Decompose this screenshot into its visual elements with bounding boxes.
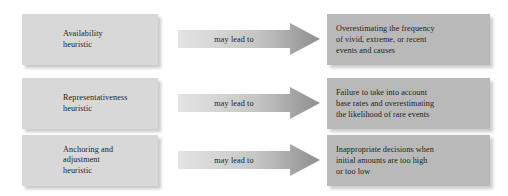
outcome-text-line: Failure to take into account — [336, 87, 485, 98]
heuristic-box: Anchoring and adjustment heuristic — [22, 135, 158, 186]
heuristic-label-line: heuristic — [63, 104, 152, 115]
heuristic-label-line: Availability — [63, 29, 152, 40]
outcome-text-line: initial amounts are too high — [336, 155, 485, 166]
outcome-box: Failure to take into account base rates … — [327, 78, 490, 129]
arrow-label: may lead to — [178, 144, 290, 176]
arrow-label: may lead to — [178, 87, 290, 119]
heuristic-label-line: heuristic — [63, 40, 152, 51]
heuristic-box: Availability heuristic — [22, 14, 158, 65]
diagram-row: Representativeness heuristic may lead to… — [0, 78, 508, 129]
diagram-row: Anchoring and adjustment heuristic may l… — [0, 135, 508, 186]
outcome-text-line: or too low — [336, 166, 485, 177]
flow-arrow: may lead to — [178, 23, 320, 55]
heuristic-label-line: Anchoring and — [63, 145, 152, 156]
heuristic-label-line: heuristic — [63, 166, 152, 177]
outcome-text-line: the likelihood of rare events — [336, 109, 485, 120]
heuristic-label-line: adjustment — [63, 155, 152, 166]
heuristics-flow-diagram: Availability heuristic may lead to Overe… — [0, 0, 508, 196]
outcome-text-line: of vivid, extreme, or recent — [336, 34, 485, 45]
heuristic-box: Representativeness heuristic — [22, 78, 158, 129]
outcome-box: Inappropriate decisions when initial amo… — [327, 135, 490, 186]
outcome-text-line: Inappropriate decisions when — [336, 144, 485, 155]
outcome-text-line: Overestimating the frequency — [336, 23, 485, 34]
arrow-label: may lead to — [178, 23, 290, 55]
flow-arrow: may lead to — [178, 87, 320, 119]
outcome-text-line: events and causes — [336, 45, 485, 56]
diagram-row: Availability heuristic may lead to Overe… — [0, 14, 508, 65]
outcome-box: Overestimating the frequency of vivid, e… — [327, 14, 490, 65]
heuristic-label-line: Representativeness — [63, 93, 152, 104]
outcome-text-line: base rates and overestimating — [336, 98, 485, 109]
flow-arrow: may lead to — [178, 144, 320, 176]
